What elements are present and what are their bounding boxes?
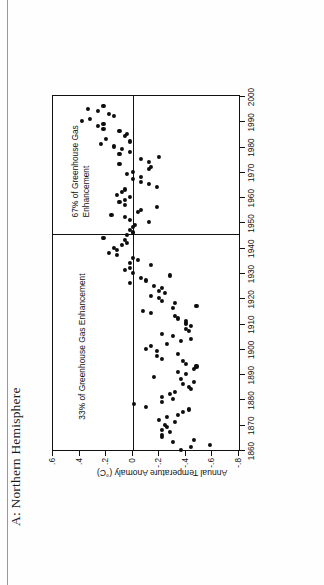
- data-point: [107, 112, 111, 116]
- data-point: [120, 147, 124, 151]
- data-point: [155, 205, 159, 209]
- data-point: [189, 445, 193, 449]
- x-axis-tick-label: 1870: [246, 416, 256, 434]
- data-point: [115, 253, 119, 257]
- data-point: [139, 180, 143, 184]
- data-point: [117, 200, 121, 204]
- data-point: [104, 137, 108, 141]
- data-point: [160, 286, 164, 290]
- x-axis-tick: [240, 324, 245, 325]
- page-title: A: Northern Hemisphere: [8, 356, 30, 526]
- data-point: [171, 397, 175, 401]
- data-point: [171, 440, 175, 444]
- x-axis-tick: [240, 425, 245, 426]
- data-point: [147, 220, 151, 224]
- x-axis-tick-label: 1950: [246, 214, 256, 232]
- data-point: [176, 370, 180, 374]
- x-axis-tick-label: 1900: [246, 341, 256, 359]
- data-point: [194, 365, 198, 369]
- data-point: [131, 177, 135, 181]
- data-point: [192, 380, 196, 384]
- data-point: [173, 420, 177, 424]
- data-point: [123, 188, 127, 192]
- data-point: [139, 208, 143, 212]
- x-axis-tick-label: 1940: [246, 239, 256, 257]
- data-point: [109, 213, 113, 217]
- x-axis-tick-label: 1880: [246, 391, 256, 409]
- data-point: [101, 104, 105, 108]
- data-point: [131, 271, 135, 275]
- data-point: [88, 117, 92, 121]
- x-axis-tick: [240, 248, 245, 249]
- y-axis-tick-label: .6: [47, 458, 57, 465]
- data-point: [144, 279, 148, 283]
- data-point: [128, 281, 132, 285]
- x-axis-tick-label: 1920: [246, 290, 256, 308]
- data-point: [184, 372, 188, 376]
- chart-figure: 33% of Greenhouse Gas Enhancement 67% of…: [44, 87, 280, 497]
- x-axis-tick: [240, 96, 245, 97]
- x-axis-tick: [240, 298, 245, 299]
- y-axis-tick-label: -.2: [153, 458, 163, 468]
- y-axis-tick: [79, 451, 80, 456]
- data-point: [176, 413, 180, 417]
- data-point: [178, 339, 182, 343]
- page-canvas: A: Northern Hemisphere 33% of Greenhouse…: [0, 0, 324, 585]
- y-axis-tick-label: -.6: [206, 458, 216, 468]
- y-axis-tick-label: -.4: [180, 458, 190, 468]
- data-point: [117, 129, 121, 133]
- data-point: [131, 170, 135, 174]
- data-point: [115, 193, 119, 197]
- x-axis-tick: [240, 273, 245, 274]
- x-axis-tick-label: 1910: [246, 315, 256, 333]
- y-axis-tick: [185, 451, 186, 456]
- data-point: [128, 139, 132, 143]
- data-point: [149, 311, 153, 315]
- data-point: [208, 443, 212, 447]
- data-point: [112, 114, 116, 118]
- x-axis-tick: [240, 222, 245, 223]
- plot-area: 33% of Greenhouse Gas Enhancement 67% of…: [52, 95, 240, 451]
- data-point: [178, 448, 182, 452]
- data-point: [160, 332, 164, 336]
- x-axis-tick-label: 2000: [246, 88, 256, 106]
- data-point: [133, 223, 137, 227]
- x-axis-tick-label: 1970: [246, 164, 256, 182]
- x-axis-tick: [240, 374, 245, 375]
- data-point: [194, 304, 198, 308]
- data-point: [125, 233, 129, 237]
- data-point: [147, 160, 151, 164]
- data-point: [147, 182, 151, 186]
- data-point: [160, 428, 164, 432]
- data-point: [117, 152, 121, 156]
- y-axis-tick: [132, 451, 133, 456]
- y-axis-tick-label: 0: [127, 458, 137, 463]
- x-axis-tick: [240, 197, 245, 198]
- data-point: [96, 124, 100, 128]
- data-point: [181, 410, 185, 414]
- data-point: [141, 309, 145, 313]
- data-point: [117, 162, 121, 166]
- data-point: [136, 258, 140, 262]
- data-point: [189, 337, 193, 341]
- data-point: [171, 306, 175, 310]
- data-point: [144, 347, 148, 351]
- data-point: [123, 268, 127, 272]
- data-point: [173, 390, 177, 394]
- data-point: [155, 185, 159, 189]
- data-point: [123, 203, 127, 207]
- data-point: [125, 172, 129, 176]
- data-point: [132, 402, 136, 406]
- x-axis-tick: [240, 399, 245, 400]
- data-point: [152, 284, 156, 288]
- data-point: [149, 344, 153, 348]
- x-axis-tick: [240, 147, 245, 148]
- data-point: [160, 400, 164, 404]
- x-axis-tick-label: 1960: [246, 189, 256, 207]
- data-point: [123, 198, 127, 202]
- data-point: [128, 266, 132, 270]
- x-axis-tick: [240, 172, 245, 173]
- data-point: [128, 261, 132, 265]
- data-point: [152, 375, 156, 379]
- data-point: [123, 215, 127, 219]
